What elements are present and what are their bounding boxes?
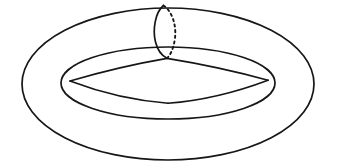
figure-background [0, 0, 339, 166]
torus-diagram [0, 0, 339, 166]
figure-container [0, 0, 339, 166]
